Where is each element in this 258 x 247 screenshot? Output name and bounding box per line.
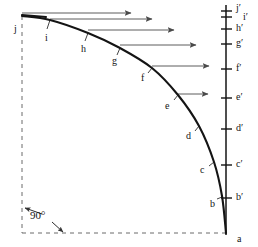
deflection-curve-group [22,15,226,233]
axis-label-g-prime: g′ [236,38,243,48]
velocity-arrows-group [22,13,209,94]
curve-label-g: g [112,56,117,66]
dashed-reference-lines [22,16,226,233]
axis-label-h-prime: h′ [236,23,243,33]
axis-label-d-prime: d′ [236,123,243,133]
diagram-canvas: j i h g f e d c b a j′ i′ h′ g′ f′ e′ d′… [0,0,258,247]
leader-tick-h [85,33,88,41]
axis-label-j-prime: j′ [236,3,241,13]
curve-label-c: c [200,165,204,175]
angle-arrow-to-horizontal [52,222,63,232]
curve-label-j: j [14,24,17,34]
curve-label-d: d [186,131,191,141]
angle-label-90deg: 90° [30,210,45,220]
deflection-curve-path [22,16,226,233]
curve-label-b: b [210,199,215,209]
curve-label-h: h [81,44,86,54]
curve-label-f: f [141,73,144,83]
curve-label-a: a [237,234,241,244]
label-leader-ticks-group [47,20,222,199]
leader-tick-g [117,48,120,55]
axis-label-f-prime: f′ [236,63,242,73]
leader-tick-i [47,20,50,29]
axis-label-c-prime: c′ [236,159,243,169]
axis-label-i-prime: i′ [243,12,248,22]
curve-label-i: i [45,33,48,43]
axis-label-e-prime: e′ [236,92,243,102]
curve-label-e: e [165,101,169,111]
axis-label-b-prime: b′ [236,192,243,202]
